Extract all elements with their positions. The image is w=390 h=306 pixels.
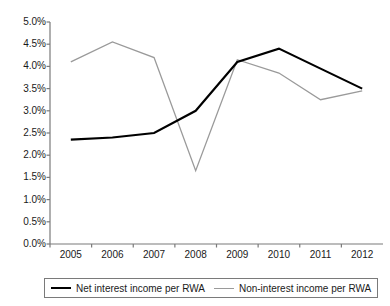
x-axis-tick-label: 2008 [185, 249, 207, 261]
x-axis-tick-label: 2011 [310, 249, 332, 261]
data-series-lines [71, 42, 362, 171]
legend-swatch-net-interest-icon [51, 287, 71, 289]
legend-swatch-non-interest-icon [214, 288, 234, 289]
axis-lines [50, 22, 383, 244]
chart-figure: 5.0%4.5%4.0%3.5%3.0%2.5%2.0%1.5%1.0%0.5%… [0, 0, 390, 306]
x-axis-tick-label: 2007 [143, 249, 165, 261]
series-line-net-interest [71, 49, 362, 140]
x-axis-tick-label: 2010 [268, 249, 290, 261]
legend-label-net-interest: Net interest income per RWA [76, 283, 205, 294]
legend-entry-net-interest: Net interest income per RWA [51, 283, 205, 294]
x-axis-tick-label: 2006 [101, 249, 123, 261]
x-axis-tick-labels: 20052006200720082009201020112012 [50, 249, 383, 265]
x-axis-tick-label: 2005 [60, 249, 82, 261]
chart-legend: Net interest income per RWA Non-interest… [44, 278, 378, 298]
x-axis-tick-label: 2009 [226, 249, 248, 261]
legend-label-non-interest: Non-interest income per RWA [239, 283, 371, 294]
legend-entry-non-interest: Non-interest income per RWA [214, 283, 371, 294]
x-axis-tick-label: 2012 [351, 249, 373, 261]
series-line-non-interest [71, 42, 362, 171]
